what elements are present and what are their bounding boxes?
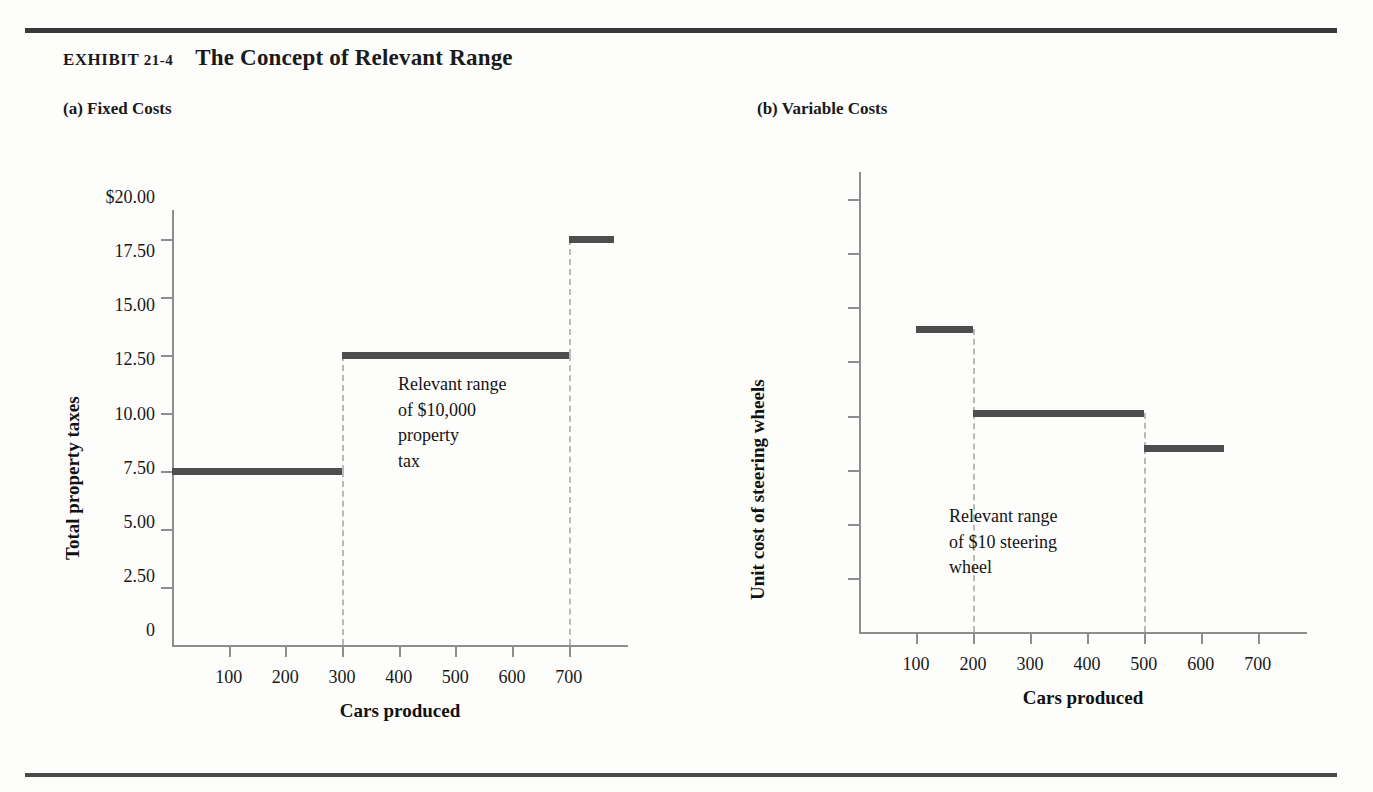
x-tick-mark — [1258, 634, 1260, 644]
x-axis-title-variable-costs: Cars produced — [859, 687, 1307, 709]
step-segment — [569, 236, 614, 243]
y-tick-mark — [848, 253, 859, 255]
x-tick-mark — [569, 647, 571, 657]
chart-fixed-costs: 02,0004,0006,0008,00010,00012,000$14,000… — [0, 0, 686, 792]
x-tick-label: 600 — [1171, 654, 1231, 675]
y-tick-mark — [848, 416, 859, 418]
y-tick-mark — [161, 239, 172, 241]
x-tick-label: 200 — [255, 667, 315, 688]
y-tick-label: 7.50 — [124, 458, 156, 479]
y-tick-mark — [161, 297, 172, 299]
x-tick-label: 600 — [482, 667, 542, 688]
step-riser — [973, 329, 977, 413]
x-tick-label: 500 — [1114, 654, 1174, 675]
x-tick-label: 100 — [199, 667, 259, 688]
x-tick-label: 400 — [1057, 654, 1117, 675]
x-tick-mark — [1030, 634, 1032, 644]
y-tick-mark — [161, 413, 172, 415]
y-tick-label: 15.00 — [115, 295, 156, 316]
x-tick-mark — [512, 647, 514, 657]
x-tick-mark — [973, 634, 975, 644]
y-tick-mark — [848, 361, 859, 363]
step-segment — [172, 468, 342, 475]
relevant-range-boundary — [569, 355, 573, 645]
x-tick-label: 700 — [1228, 654, 1288, 675]
x-tick-mark — [399, 647, 401, 657]
step-segment — [342, 352, 569, 359]
y-tick-mark — [161, 529, 172, 531]
y-tick-label: 2.50 — [124, 566, 156, 587]
x-tick-mark — [455, 647, 457, 657]
x-tick-mark — [916, 634, 918, 644]
y-tick-mark — [848, 307, 859, 309]
x-tick-mark — [1144, 634, 1146, 644]
x-axis-title-fixed-costs: Cars produced — [172, 700, 628, 722]
step-segment — [973, 410, 1144, 417]
step-riser — [1144, 413, 1148, 448]
x-tick-label: 500 — [425, 667, 485, 688]
chart-variable-costs: 02.505.007.5010.0012.5015.0017.50$20.001… — [687, 0, 1373, 792]
step-riser — [342, 355, 346, 471]
y-tick-label: 10.00 — [115, 404, 156, 425]
y-tick-mark — [161, 355, 172, 357]
x-axis-line-variable — [859, 632, 1307, 634]
x-tick-label: 200 — [943, 654, 1003, 675]
x-tick-mark — [1087, 634, 1089, 644]
x-tick-mark — [229, 647, 231, 657]
y-tick-label: 5.00 — [124, 512, 156, 533]
x-tick-mark — [342, 647, 344, 657]
relevant-range-boundary — [342, 471, 346, 645]
y-axis-title-variable-costs: Unit cost of steering wheels — [747, 379, 769, 600]
step-riser — [569, 239, 573, 355]
annotation-relevant-range-fixed: Relevant range of $10,000 property tax — [398, 372, 506, 475]
relevant-range-boundary — [1144, 448, 1148, 632]
x-tick-label: 700 — [539, 667, 599, 688]
step-segment — [916, 326, 973, 333]
x-tick-label: 400 — [369, 667, 429, 688]
x-tick-label: 300 — [1000, 654, 1060, 675]
y-axis-line-fixed — [172, 210, 174, 645]
y-tick-mark — [848, 578, 859, 580]
y-tick-label: 17.50 — [115, 241, 156, 262]
y-tick-mark — [161, 471, 172, 473]
y-tick-mark — [161, 587, 172, 589]
x-tick-label: 100 — [886, 654, 946, 675]
exhibit-page: EXHIBIT 21-4 The Concept of Relevant Ran… — [0, 0, 1373, 792]
y-tick-mark — [848, 199, 859, 201]
y-tick-mark — [848, 524, 859, 526]
y-tick-label: 12.50 — [115, 349, 156, 370]
x-tick-label: 300 — [312, 667, 372, 688]
x-tick-mark — [1201, 634, 1203, 644]
y-tick-mark — [848, 470, 859, 472]
y-tick-label: 0 — [146, 620, 155, 641]
y-tick-label: $20.00 — [106, 187, 156, 208]
annotation-relevant-range-variable: Relevant range of $10 steering wheel — [949, 504, 1057, 581]
step-segment — [1144, 445, 1224, 452]
x-tick-mark — [285, 647, 287, 657]
y-axis-line-variable — [859, 172, 861, 632]
y-axis-title-fixed-costs: Total property taxes — [62, 396, 84, 560]
